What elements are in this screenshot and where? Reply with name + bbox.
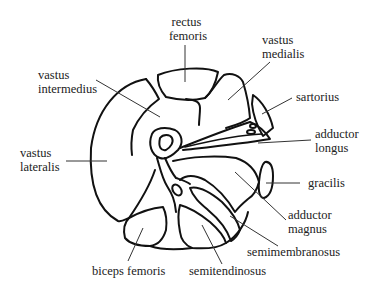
femur-outer <box>150 128 181 159</box>
semitendinosus-shape <box>179 205 227 248</box>
label-rectus-femoris: rectus femoris <box>169 15 207 43</box>
semimembranosus-shape <box>190 188 240 241</box>
vastus-intermedius-border <box>131 79 159 155</box>
muscle-outlines <box>91 68 273 249</box>
intermedius-medialis-divider <box>186 99 200 125</box>
biceps-femoris-shape <box>124 207 166 246</box>
label-semimembranosus: semimembranosus <box>247 245 340 259</box>
leader-vastus-medialis <box>228 62 270 100</box>
label-vastus-intermedius: vastus intermedius <box>38 68 97 96</box>
femur-inner <box>159 135 172 150</box>
thigh-cross-section-diagram: rectus femoris vastus medialis vastus in… <box>0 0 378 290</box>
vessel-1 <box>250 124 256 128</box>
vastus-medialis-shape <box>205 74 250 128</box>
vastus-lateralis-shape <box>91 79 155 221</box>
leader-semimembranosus <box>230 216 278 246</box>
label-vastus-medialis: vastus medialis <box>262 33 304 61</box>
posterior-border <box>150 246 192 249</box>
label-semitendinosus: semitendinosus <box>189 264 266 278</box>
label-gracilis: gracilis <box>308 176 345 190</box>
label-adductor-magnus: adductor magnus <box>288 208 335 236</box>
label-adductor-longus: adductor longus <box>315 127 362 155</box>
posterior-septum-2 <box>165 158 190 184</box>
label-sartorius: sartorius <box>296 90 339 104</box>
gracilis-shape <box>259 162 273 198</box>
leader-sartorius <box>262 98 292 114</box>
adductor-magnus-shape <box>173 157 259 212</box>
leader-adductor-magnus <box>235 172 286 220</box>
leader-lines <box>66 45 311 264</box>
labels: rectus femoris vastus medialis vastus in… <box>20 15 362 278</box>
label-vastus-lateralis: vastus lateralis <box>20 146 60 174</box>
vessel-2 <box>247 130 255 134</box>
label-biceps-femoris: biceps femoris <box>92 264 165 278</box>
